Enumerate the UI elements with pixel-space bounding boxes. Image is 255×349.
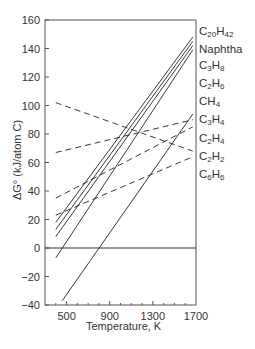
y-tick-label: 120 [22,71,40,83]
y-tick-label: 20 [28,214,40,226]
y-tick-label: 80 [28,128,40,140]
y-tick-label: 160 [22,14,40,26]
series-line [56,50,193,258]
legend-item: C2H2 [199,149,242,167]
series-line [56,103,193,151]
data-lines [56,37,193,301]
series-line [56,46,193,237]
x-tick-label: 500 [57,310,75,322]
x-axis-label: Temperature, K [86,320,161,332]
y-axis-label: ΔG° (kJ/atom C) [11,105,23,215]
y-tick-label: 100 [22,100,40,112]
x-tick-label: 1700 [184,310,208,322]
y-tick-label: 140 [22,43,40,55]
series-line [56,41,193,229]
series-line [62,114,193,301]
y-tick-label: 0 [34,242,40,254]
y-tick-label: 40 [28,185,40,197]
y-tick-label: −20 [21,271,40,283]
y-tick-label: −40 [21,299,40,311]
legend-item: C3H8 [199,58,242,76]
series-line [56,37,193,222]
legend-item: C2H6 [199,76,242,94]
legend-item: C3H4 [199,112,242,130]
legend-item: Naphtha [199,42,242,57]
legend-item: C6H6 [199,167,242,185]
legend: C20H42NaphthaC3H8C2H6CH4C3H4C2H4C2H2C6H6 [199,24,242,186]
legend-item: C20H42 [199,24,242,42]
legend-item: CH4 [199,94,242,112]
legend-item: C2H4 [199,131,242,149]
series-line [56,127,193,198]
series-line [56,157,193,215]
y-tick-label: 60 [28,157,40,169]
series-line [56,120,193,153]
